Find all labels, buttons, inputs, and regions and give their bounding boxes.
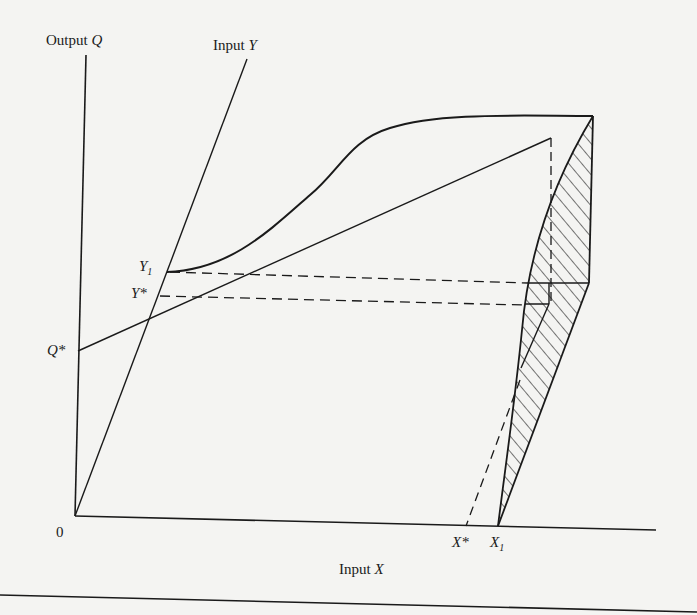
x1-sub: 1 xyxy=(499,542,504,553)
ystar-dashed xyxy=(160,296,525,305)
y1-dashed xyxy=(170,272,528,283)
production-curve xyxy=(167,116,593,272)
x-axis-var: X xyxy=(374,561,383,577)
q-axis-var: Q xyxy=(91,32,102,48)
qstar-label: Q* xyxy=(47,342,65,359)
bottom-rule xyxy=(0,595,697,612)
x-axis-label: Input X xyxy=(339,561,384,578)
x-axis xyxy=(75,516,656,530)
hatched-region xyxy=(498,116,593,526)
y-axis-label-text: Input xyxy=(213,37,245,53)
y-axis xyxy=(75,59,247,516)
y1-sub: 1 xyxy=(147,266,152,277)
production-diagram xyxy=(0,0,697,615)
origin-label: 0 xyxy=(56,524,64,541)
y1-label: Y1 xyxy=(139,258,152,277)
xstar-label: X* xyxy=(452,534,469,551)
x1-var: X xyxy=(490,534,499,550)
x-axis-label-text: Input xyxy=(339,561,371,577)
y-axis-var: Y xyxy=(248,37,256,53)
q-axis-label: Output Q xyxy=(46,32,102,49)
q-axis xyxy=(75,55,86,516)
q-star-line xyxy=(78,138,551,351)
q-axis-label-text: Output xyxy=(46,32,88,48)
ystar-label: Y* xyxy=(131,285,147,302)
y-axis-label: Input Y xyxy=(213,37,257,54)
x1-label: X1 xyxy=(490,534,504,553)
